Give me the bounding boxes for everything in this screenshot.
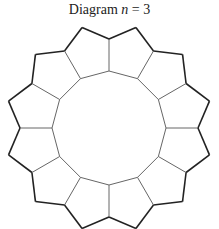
outer-edge [183,54,187,83]
spoke-edge [158,157,186,173]
outer-edge [32,173,36,202]
spoke-edge [32,84,60,100]
outer-edge [198,101,209,128]
inner-edge [158,100,166,129]
outer-edge [109,217,136,228]
inner-edge [81,71,110,79]
outer-edge [183,173,187,202]
outer-edge [198,128,209,155]
outer-edge [32,54,36,83]
spoke-edge [138,51,154,79]
outer-edge [154,51,183,55]
outer-edge [65,28,83,51]
inner-edge [109,71,138,79]
inner-edge [81,177,110,185]
outer-edge [9,155,32,173]
spoke-edge [32,157,60,173]
outer-edge [82,28,109,39]
outer-edge [82,217,109,228]
inner-edge [60,79,81,100]
outer-edge [154,202,183,206]
spoke-edge [65,51,81,79]
spoke-edge [158,84,186,100]
inner-edge [52,128,60,157]
inner-edge [109,177,138,185]
outer-edge [136,28,154,51]
inner-edge [158,128,166,157]
inner-edge [60,157,81,178]
outer-edge [9,101,20,128]
outer-edge [35,202,64,206]
outer-edge [65,205,83,228]
spoke-edge [138,177,154,205]
inner-edge [138,79,159,100]
pentagon-ring-diagram [0,0,219,229]
outer-edge [186,84,209,102]
inner-edge [138,157,159,178]
outer-edge [109,28,136,39]
outer-edge [136,205,154,228]
spoke-edge [65,177,81,205]
inner-edge [52,100,60,129]
outer-edge [9,84,32,102]
outer-edge [35,51,64,55]
outer-edge [186,155,209,173]
outer-edge [9,128,20,155]
